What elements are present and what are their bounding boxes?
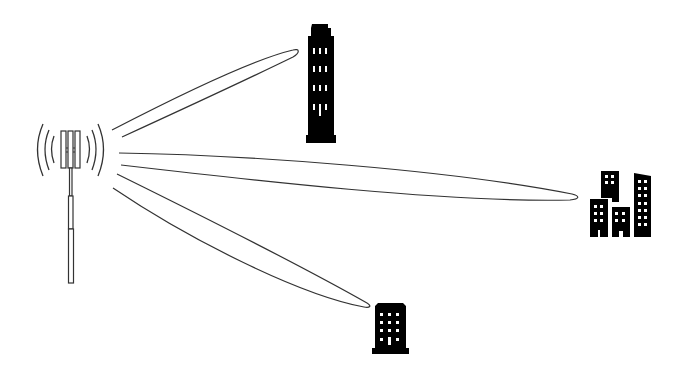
- radio-waves-left-icon: [38, 124, 55, 176]
- beamforming-diagram: [0, 0, 682, 370]
- beam-to-tall-building: [112, 50, 298, 137]
- diagram-canvas: [0, 0, 682, 370]
- cell-tower-icon: [38, 124, 104, 283]
- beam-to-building-cluster: [119, 153, 578, 200]
- small-building-icon: [372, 303, 409, 354]
- building-cluster-icon: [590, 171, 651, 237]
- beams: [112, 50, 578, 308]
- radio-waves-right-icon: [87, 124, 104, 176]
- tall-building-icon: [306, 24, 336, 143]
- beam-to-small-building: [113, 174, 370, 307]
- tower-mast-icon: [69, 168, 74, 283]
- antenna-panels-icon: [61, 131, 80, 168]
